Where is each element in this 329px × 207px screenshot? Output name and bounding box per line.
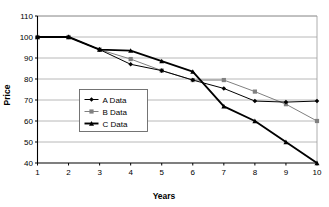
y-axis-title: Price xyxy=(2,84,12,105)
x-tick-label: 10 xyxy=(313,168,322,177)
y-tick-label: 50 xyxy=(24,138,33,147)
y-tick-label: 90 xyxy=(24,54,33,63)
x-tick-label: 3 xyxy=(97,168,102,177)
x-tick-label: 6 xyxy=(191,168,196,177)
legend-label: A Data xyxy=(103,96,128,105)
line-chart: 405060708090100110 12345678910 Years Pri… xyxy=(0,0,329,207)
chart-canvas: 405060708090100110 12345678910 Years Pri… xyxy=(0,0,329,207)
legend-label: B Data xyxy=(103,108,128,117)
y-tick-label: 110 xyxy=(20,12,33,21)
y-tick-label: 80 xyxy=(24,75,33,84)
chart-legend: A DataB DataC Data xyxy=(80,90,148,132)
x-tick-label: 9 xyxy=(284,168,289,177)
y-tick-label: 70 xyxy=(24,96,33,105)
chart-background xyxy=(0,0,329,207)
y-tick-label: 40 xyxy=(24,159,33,168)
square-marker xyxy=(253,90,257,94)
x-tick-label: 4 xyxy=(128,168,133,177)
legend-label: C Data xyxy=(103,120,128,129)
square-marker xyxy=(129,57,133,61)
x-axis-title: Years xyxy=(153,191,176,201)
x-tick-label: 5 xyxy=(159,168,164,177)
x-tick-label: 2 xyxy=(66,168,71,177)
square-marker xyxy=(89,109,93,113)
y-tick-label: 60 xyxy=(24,117,33,126)
x-tick-label: 7 xyxy=(222,168,227,177)
square-marker xyxy=(315,119,319,123)
x-tick-label: 8 xyxy=(253,168,258,177)
square-marker xyxy=(222,78,226,82)
x-tick-label: 1 xyxy=(35,168,40,177)
y-tick-label: 100 xyxy=(20,33,34,42)
